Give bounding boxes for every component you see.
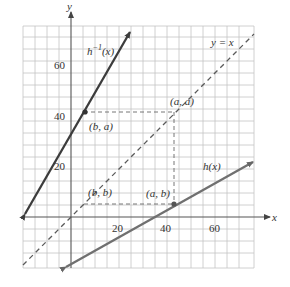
tick-y-20: 20 [54, 160, 66, 172]
identity-label: y = x [210, 36, 234, 48]
tick-x-60: 60 [209, 222, 221, 234]
h-inverse-line [25, 32, 130, 214]
tick-x-40: 40 [160, 222, 172, 234]
h-line [66, 162, 253, 267]
x-axis-label: x [271, 211, 277, 223]
point-a-a-label: (a, a) [170, 95, 194, 108]
point-b-a [82, 109, 87, 114]
h-inverse-label: h−1(x) [87, 43, 114, 58]
tick-y-40: 40 [54, 110, 66, 122]
point-b-b-label: (b, b) [88, 186, 112, 199]
point-b-a-label: (b, a) [89, 120, 113, 133]
function-inverse-graph: y x 60 40 20 20 40 60 h−1(x) h(x) y = x … [0, 0, 290, 287]
point-a-b-label: (a, b) [146, 187, 170, 200]
y-axis-label: y [66, 0, 72, 12]
tick-y-60: 60 [54, 59, 66, 71]
tick-x-20: 20 [112, 222, 124, 234]
point-a-b [171, 201, 176, 206]
h-label: h(x) [203, 160, 221, 173]
